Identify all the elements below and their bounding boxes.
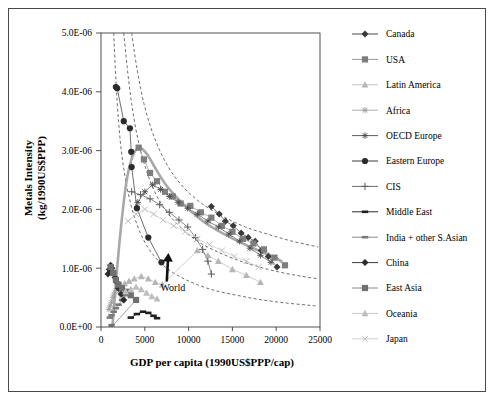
y-axis-title-line1: Metals Intensity [22, 139, 34, 216]
legend-item-china[interactable]: China [352, 258, 409, 268]
chart-legend: CanadaUSALatin AmericaAfricaOECD EuropeE… [352, 29, 468, 344]
x-axis: 0500010000150002000025000 [99, 327, 333, 345]
legend-marker-diamond-icon [362, 259, 369, 266]
y-tick-label: 2.0E-06 [62, 205, 93, 215]
x-axis-title: GDP per capita (1990US$PPP/cap) [130, 356, 294, 369]
legend-label: Africa [386, 106, 411, 116]
legend-item-usa[interactable]: USA [352, 55, 405, 65]
x-tick-label: 15000 [221, 335, 245, 345]
legend-label: East Asia [386, 283, 422, 293]
legend-label: OECD Europe [386, 131, 442, 141]
legend-marker-circle-icon [362, 158, 368, 164]
legend-label: Latin America [386, 80, 441, 90]
y-tick-label: 3.0E-06 [62, 146, 93, 156]
legend-label: India + other S.Asian [386, 233, 468, 243]
legend-marker-square-icon [362, 285, 368, 291]
legend-item-africa[interactable]: Africa [352, 106, 411, 116]
metals-intensity-chart: 0500010000150002000025000 0.0E+001.0E-06… [0, 0, 496, 401]
legend-item-latin-america[interactable]: Latin America [352, 80, 441, 90]
legend-label: Middle East [386, 207, 433, 217]
legend-label: USA [386, 55, 405, 65]
legend-item-cis[interactable]: CIS [352, 182, 401, 192]
y-tick-label: 4.0E-06 [62, 87, 93, 97]
annotation-label: World [160, 282, 185, 293]
x-tick-label: 5000 [135, 335, 154, 345]
legend-label: CIS [386, 182, 401, 192]
legend-marker-square-icon [362, 56, 368, 62]
legend-marker-diamond-icon [362, 31, 369, 38]
x-tick-label: 0 [99, 335, 104, 345]
y-tick-label: 0.0E+00 [59, 322, 92, 332]
y-tick-label: 5.0E-06 [62, 28, 93, 38]
plot-area-frame [101, 33, 320, 327]
y-axis: 0.0E+001.0E-062.0E-063.0E-064.0E-065.0E-… [59, 28, 101, 332]
legend-item-eastern-europe[interactable]: Eastern Europe [352, 156, 444, 166]
y-tick-label: 1.0E-06 [62, 264, 93, 274]
legend-item-east-asia[interactable]: East Asia [352, 283, 422, 293]
annotation-arrow-shaft [167, 259, 168, 281]
legend-label: Oceania [386, 309, 418, 319]
legend-label: Eastern Europe [386, 156, 444, 166]
legend-marker-dash-icon [362, 211, 368, 214]
legend-item-middle-east[interactable]: Middle East [352, 207, 433, 217]
legend-marker-plus-icon [361, 183, 368, 190]
legend-item-india-other-s-asian[interactable]: India + other S.Asian [352, 233, 468, 243]
x-tick-label: 10000 [177, 335, 201, 345]
y-axis-title-line2: (kg/1990US$PPP) [35, 136, 48, 220]
legend-item-oceania[interactable]: Oceania [352, 309, 418, 319]
legend-item-oecd-europe[interactable]: OECD Europe [352, 131, 442, 141]
legend-item-canada[interactable]: Canada [352, 29, 415, 39]
legend-marker-star-icon [362, 107, 368, 113]
x-tick-label: 25000 [308, 335, 332, 345]
legend-label: Japan [386, 334, 408, 344]
legend-marker-dash-icon [362, 236, 368, 239]
legend-label: Canada [386, 29, 415, 39]
legend-item-japan[interactable]: Japan [352, 334, 408, 344]
legend-label: China [386, 258, 409, 268]
x-tick-label: 20000 [264, 335, 288, 345]
legend-marker-star-icon [362, 132, 368, 138]
